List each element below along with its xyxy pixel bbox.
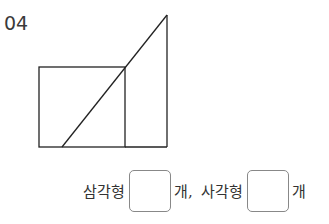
rectangle-unit: 개	[292, 180, 306, 201]
rectangle-shape	[39, 67, 125, 147]
triangle-unit: 개,	[174, 180, 193, 201]
triangle-count-input[interactable]	[129, 170, 171, 212]
diagonal-line	[62, 15, 167, 147]
rectangle-count-input[interactable]	[247, 170, 289, 212]
answer-row: 삼각형 개, 사각형 개	[83, 168, 306, 213]
triangle-label: 삼각형	[83, 180, 125, 201]
rectangle-label: 사각형	[201, 180, 243, 201]
